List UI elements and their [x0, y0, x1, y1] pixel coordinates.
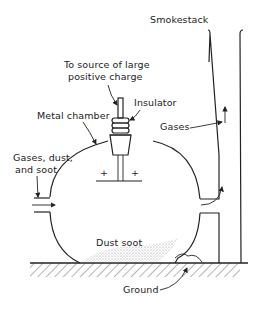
- gases-in-label-line1: Gases, dust,: [13, 152, 73, 163]
- metal-chamber-label: Metal chamber: [37, 110, 110, 121]
- dust-soot-label: Dust soot: [96, 237, 142, 248]
- plus-sign-left: +: [100, 167, 108, 178]
- precipitator-diagram: + + Smokestack To source of large positi…: [0, 0, 262, 309]
- smokestack-label: Smokestack: [150, 14, 209, 25]
- metal-chamber: [50, 141, 200, 199]
- charge-source-label-line1: To source of large: [63, 59, 150, 70]
- gases-in-label-line2: and soot: [15, 164, 57, 175]
- gases-out-label: Gases: [160, 121, 189, 132]
- plus-sign-right: +: [131, 167, 139, 178]
- charge-source-label-line2: positive charge: [68, 71, 143, 82]
- ground-label: Ground: [123, 284, 159, 295]
- smokestack: [208, 30, 243, 263]
- insulator-label: Insulator: [134, 97, 177, 108]
- ground-surface: [30, 263, 248, 277]
- insulator: [110, 98, 131, 155]
